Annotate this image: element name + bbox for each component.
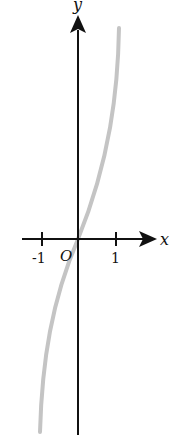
x-tick-label-1: 1 [111,250,120,266]
function-curve [40,28,119,432]
y-axis-label: y [72,0,83,14]
x-axis-label: x [160,230,169,249]
x-tick-label-neg1: -1 [32,250,46,266]
origin-label: O [60,247,72,265]
graph: y x O -1 1 [0,0,172,435]
